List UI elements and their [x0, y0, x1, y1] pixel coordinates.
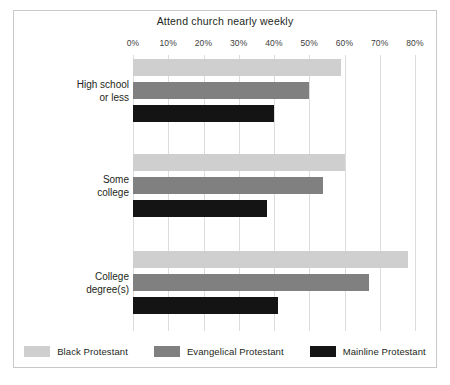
- x-tick-label: 60%: [336, 38, 354, 48]
- bar: [133, 82, 309, 99]
- y-category-label: High schoolor less: [19, 78, 129, 104]
- y-category-label-line: High school: [19, 78, 129, 91]
- gridline: [415, 55, 416, 331]
- x-tick-label: 80%: [406, 38, 424, 48]
- bar: [133, 154, 345, 171]
- legend-label: Mainline Protestant: [343, 346, 426, 357]
- x-axis-tick-labels: 0%10%20%30%40%50%60%70%80%: [133, 38, 415, 52]
- legend-swatch: [24, 346, 50, 357]
- bar: [133, 297, 278, 314]
- legend-swatch: [154, 346, 180, 357]
- legend-item[interactable]: Evangelical Protestant: [154, 346, 284, 357]
- x-tick-label: 70%: [371, 38, 389, 48]
- y-category-label-line: degree(s): [19, 283, 129, 296]
- x-tick-label: 50%: [300, 38, 318, 48]
- y-category-label: Collegedegree(s): [19, 270, 129, 296]
- x-tick-label: 30%: [230, 38, 248, 48]
- bar: [133, 274, 369, 291]
- x-tick-label: 10%: [159, 38, 177, 48]
- y-category-label: Somecollege: [19, 173, 129, 199]
- y-category-label-line: college: [19, 186, 129, 199]
- x-tick-label: 0%: [127, 38, 140, 48]
- x-tick-label: 20%: [195, 38, 213, 48]
- bar: [133, 200, 267, 217]
- legend-label: Black Protestant: [57, 346, 128, 357]
- legend-label: Evangelical Protestant: [187, 346, 284, 357]
- y-category-label-line: Some: [19, 173, 129, 186]
- x-tick-label: 40%: [265, 38, 283, 48]
- chart-screenshot: Attend church nearly weekly 0%10%20%30%4…: [0, 0, 450, 385]
- chart-title: Attend church nearly weekly: [0, 15, 450, 27]
- bar: [133, 105, 274, 122]
- legend-item[interactable]: Mainline Protestant: [310, 346, 426, 357]
- y-category-label-line: or less: [19, 91, 129, 104]
- bar: [133, 177, 323, 194]
- y-axis-category-labels: High schoolor lessSomecollegeCollegedegr…: [13, 55, 129, 331]
- y-category-label-line: College: [19, 270, 129, 283]
- legend-item[interactable]: Black Protestant: [24, 346, 128, 357]
- plot-bars-layer: [133, 55, 415, 331]
- bar: [133, 59, 341, 76]
- legend-swatch: [310, 346, 336, 357]
- bar: [133, 251, 408, 268]
- chart-legend: Black ProtestantEvangelical ProtestantMa…: [13, 340, 437, 362]
